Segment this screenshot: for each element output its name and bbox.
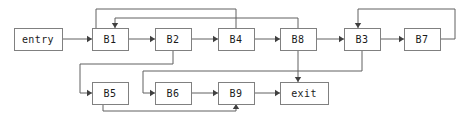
edge-B8-B3	[316, 36, 344, 42]
node-label: B7	[416, 34, 429, 45]
node-B7[interactable]: B7	[405, 29, 441, 51]
node-label: B8	[292, 34, 305, 45]
node-B3[interactable]: B3	[345, 29, 381, 51]
node-B1[interactable]: B1	[93, 29, 129, 51]
arrowhead-icon	[295, 77, 301, 82]
edge-line	[103, 104, 236, 111]
arrowhead-icon	[213, 36, 218, 42]
node-B6[interactable]: B6	[156, 83, 192, 105]
arrowhead-icon	[275, 36, 280, 42]
edge-B8-B1-back	[112, 18, 298, 28]
node-label: B1	[104, 34, 117, 45]
arrowhead-icon	[112, 23, 118, 28]
arrowhead-icon	[339, 36, 344, 42]
node-layer: entryB1B2B4B8B3B7B5B6B9exit	[15, 29, 441, 105]
arrowhead-icon	[150, 36, 155, 42]
arrowhead-icon	[87, 36, 92, 42]
arrowhead-icon	[213, 90, 218, 96]
arrowhead-icon	[87, 90, 92, 96]
node-label: entry	[22, 34, 54, 45]
node-label: B3	[356, 34, 369, 45]
node-exit[interactable]: exit	[281, 83, 329, 105]
node-label: B4	[230, 34, 243, 45]
edge-B6-B9	[191, 90, 218, 96]
edge-B5-B9-back	[103, 104, 239, 111]
edge-line	[115, 18, 298, 28]
node-label: exit	[291, 88, 317, 99]
node-B9[interactable]: B9	[219, 83, 255, 105]
node-B8[interactable]: B8	[281, 29, 317, 51]
node-label: B2	[167, 34, 180, 45]
node-label: B6	[167, 88, 180, 99]
edge-B1-B2	[128, 36, 155, 42]
edge-B2-B4	[191, 36, 218, 42]
edge-entry-B1	[62, 36, 92, 42]
node-label: B5	[104, 88, 117, 99]
control-flow-graph-diagram: entryB1B2B4B8B3B7B5B6B9exit	[0, 0, 468, 118]
node-B5[interactable]: B5	[93, 83, 129, 105]
node-label: B9	[230, 88, 243, 99]
node-B2[interactable]: B2	[156, 29, 192, 51]
node-B4[interactable]: B4	[219, 29, 255, 51]
arrowhead-icon	[150, 90, 155, 96]
edge-B8-exit	[295, 50, 301, 82]
arrowhead-icon	[355, 23, 361, 28]
arrowhead-icon	[399, 36, 404, 42]
edge-B9-exit	[254, 90, 280, 96]
node-entry[interactable]: entry	[15, 29, 63, 51]
diagram-canvas: entryB1B2B4B8B3B7B5B6B9exit	[0, 0, 468, 118]
edge-B3-B7	[380, 36, 404, 42]
arrowhead-icon	[275, 90, 280, 96]
edge-B4-B8	[254, 36, 280, 42]
